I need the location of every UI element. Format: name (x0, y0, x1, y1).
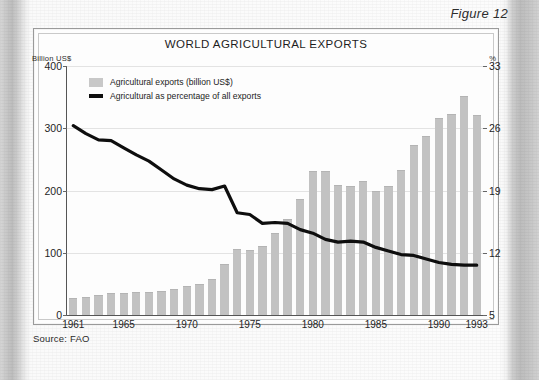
y-tick-right: 19 (489, 185, 501, 197)
y-tick-mark-left (63, 253, 67, 254)
y-tick-mark-right (483, 128, 487, 129)
y-tick-left: 0 (56, 309, 62, 321)
x-axis-line (67, 315, 483, 316)
y-tick-mark-right (483, 66, 487, 67)
x-tick: 1985 (365, 319, 387, 330)
x-tick: 1993 (466, 319, 488, 330)
chart-frame: WORLD AGRICULTURAL EXPORTS Billion US$ %… (33, 28, 499, 325)
y-tick-left: 100 (44, 247, 62, 259)
x-tick: 1980 (302, 319, 324, 330)
y-tick-right: 12 (489, 247, 501, 259)
y-tick-left: 200 (44, 185, 62, 197)
y-tick-mark-right (483, 191, 487, 192)
x-tick: 1961 (62, 319, 84, 330)
chart-title: WORLD AGRICULTURAL EXPORTS (34, 38, 498, 50)
y-tick-mark-left (63, 315, 67, 316)
x-tick: 1970 (176, 319, 198, 330)
y-tick-mark-left (63, 66, 67, 67)
plot-area: 0100200300400 512192633 1961196519701975… (67, 66, 483, 315)
x-tick: 1965 (113, 319, 135, 330)
y-tick-left: 300 (44, 122, 62, 134)
source-note: Source: FAO (33, 333, 90, 344)
y-tick-mark-right (483, 253, 487, 254)
figure-label: Figure 12 (450, 6, 508, 21)
y-tick-right: 5 (489, 309, 495, 321)
line-series (67, 66, 483, 315)
y-tick-right: 33 (489, 60, 501, 72)
x-tick: 1990 (428, 319, 450, 330)
x-tick: 1975 (239, 319, 261, 330)
y-tick-right: 26 (489, 122, 501, 134)
y-tick-mark-right (483, 315, 487, 316)
y-tick-mark-left (63, 191, 67, 192)
y-tick-mark-left (63, 128, 67, 129)
y-tick-left: 400 (44, 60, 62, 72)
